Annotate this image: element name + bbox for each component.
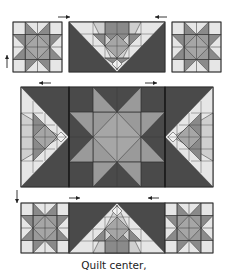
quilt-block-flying-geese-up [69, 203, 165, 253]
quilt-block-big-star [69, 87, 165, 187]
quilt-block-star [21, 203, 69, 253]
arrow-left-icon [148, 196, 159, 200]
arrow-down-icon [15, 190, 19, 203]
quilt-block-star [165, 203, 213, 253]
quilt-assembly-diagram [0, 0, 228, 275]
diagram-caption: Quilt center, [0, 259, 228, 271]
middle-row [21, 87, 213, 187]
quilt-block-flying-geese-down [69, 22, 165, 72]
quilt-block-geese-left [165, 87, 213, 187]
top-row [13, 22, 221, 72]
arrow-right-icon [58, 15, 70, 19]
quilt-block-geese-right [21, 87, 69, 187]
quilt-block-star [172, 22, 221, 72]
arrow-right-icon [69, 196, 80, 200]
arrow-up-icon [5, 55, 9, 68]
arrow-left-icon [39, 81, 51, 85]
quilt-block-star [13, 22, 62, 72]
bottom-row [21, 203, 213, 253]
arrow-left-icon [155, 15, 167, 19]
arrow-right-icon [145, 81, 157, 85]
